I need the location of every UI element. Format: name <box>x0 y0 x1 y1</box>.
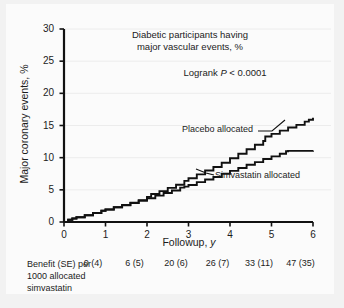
figure-container: Major coronary events, % Followup, y Dia… <box>0 0 344 308</box>
series-label-simvastatin: Simvastatin allocated <box>215 170 300 180</box>
benefit-row-label-line-2: 1000 allocated <box>27 271 86 281</box>
chart-title-line-2: major vascular events, % <box>80 42 300 53</box>
y-tick-label: 30 <box>28 23 54 35</box>
logrank-annotation: Logrank P < 0.0001 <box>150 68 300 79</box>
benefit-value: 26 (7) <box>195 258 241 268</box>
x-tick-label: 1 <box>96 229 116 241</box>
y-tick-label: 15 <box>28 120 54 132</box>
chart-title-line-1: Diabetic participants having <box>80 30 300 41</box>
x-tick-label: 5 <box>262 229 282 241</box>
x-tick-label: 6 <box>303 229 323 241</box>
benefit-value: 0 (4) <box>70 258 116 268</box>
x-axis-title-unit: y <box>210 236 215 248</box>
logrank-prefix: Logrank <box>183 67 220 78</box>
y-tick-label: 20 <box>28 87 54 99</box>
x-tick-label: 4 <box>220 229 240 241</box>
benefit-value: 47 (35) <box>278 258 324 268</box>
logrank-value: < 0.0001 <box>227 67 267 78</box>
y-tick-label: 25 <box>28 55 54 67</box>
x-tick-label: 3 <box>179 229 199 241</box>
benefit-value: 20 (6) <box>153 258 199 268</box>
y-tick-label: 10 <box>28 152 54 164</box>
series-curve-simvastatin <box>64 151 313 222</box>
benefit-value: 6 (5) <box>112 258 158 268</box>
benefit-value: 33 (11) <box>236 258 282 268</box>
benefit-row-label-line-3: simvastatin <box>27 283 72 293</box>
x-tick-label: 0 <box>54 229 74 241</box>
y-tick-label: 5 <box>28 184 54 196</box>
series-label-placebo: Placebo allocated <box>182 124 253 134</box>
x-tick-label: 2 <box>137 229 157 241</box>
chart-title: Diabetic participants having major vascu… <box>80 30 300 54</box>
y-tick-label: 0 <box>28 216 54 228</box>
